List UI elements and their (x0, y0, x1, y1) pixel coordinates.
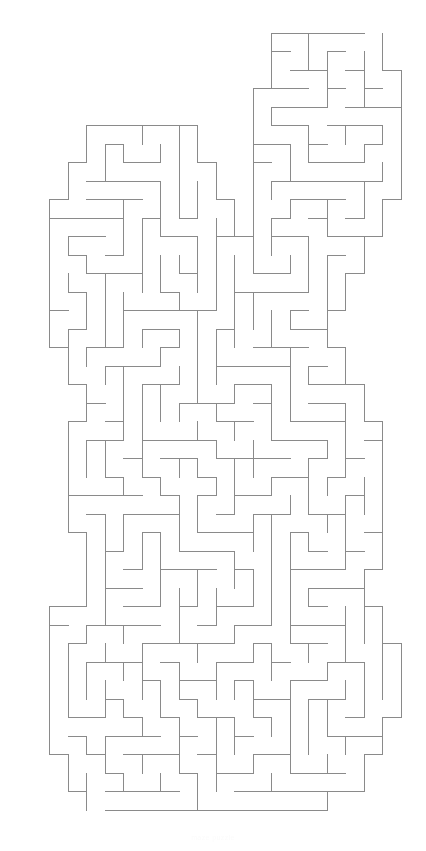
maze-page: maze puzzle (0, 0, 426, 851)
footer-caption: maze puzzle (0, 834, 426, 841)
maze-canvas[interactable] (0, 0, 426, 851)
